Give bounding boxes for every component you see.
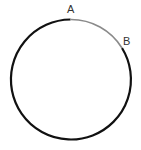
circle-diagram: A B [0,0,141,150]
minor-arc-ab [71,19,123,48]
label-b: B [123,35,130,47]
label-a: A [67,3,75,15]
